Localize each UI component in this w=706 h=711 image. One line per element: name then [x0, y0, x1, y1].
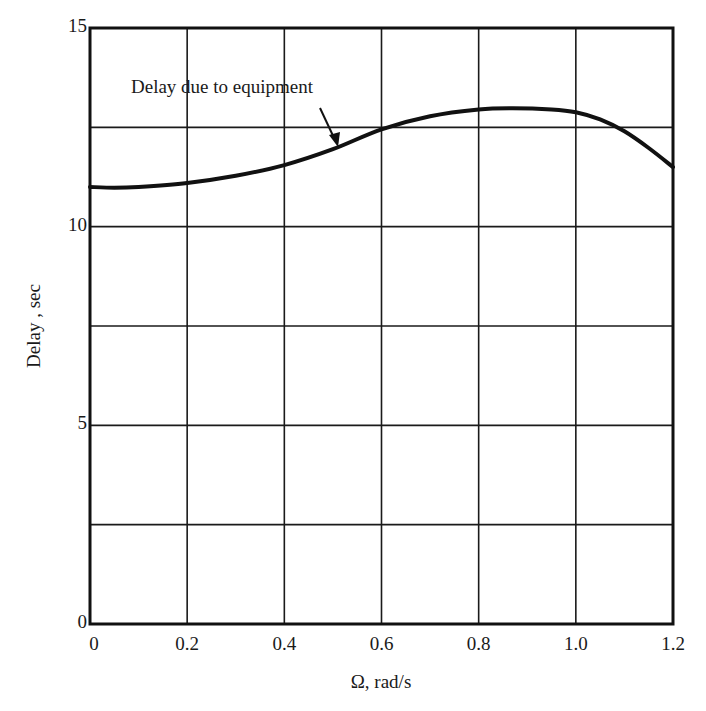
x-tick-label: 0.2 [175, 633, 199, 654]
y-tick-label: 10 [68, 214, 87, 235]
y-axis-label: Delay , sec [23, 284, 44, 368]
annotation-label: Delay due to equipment [131, 76, 314, 97]
x-tick-label: 0 [89, 633, 99, 654]
grid-lines [90, 28, 673, 624]
x-tick-label: 0.6 [370, 633, 394, 654]
y-tick-label: 15 [68, 15, 87, 36]
x-tick-label: 1.2 [661, 633, 685, 654]
x-tick-label: 0.4 [272, 633, 296, 654]
x-tick-labels: 00.20.40.60.81.01.2 [89, 633, 685, 654]
chart: 00.20.40.60.81.01.2 051015 Ω, rad/s Dela… [0, 0, 706, 711]
x-axis-label: Ω, rad/s [351, 671, 412, 692]
x-tick-label: 1.0 [564, 633, 588, 654]
x-tick-label: 0.8 [467, 633, 491, 654]
y-tick-labels: 051015 [68, 15, 87, 632]
y-tick-label: 5 [78, 412, 88, 433]
y-tick-label: 0 [78, 611, 88, 632]
